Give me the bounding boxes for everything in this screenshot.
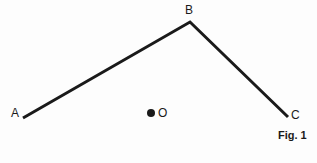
figure-canvas: A B C O Fig. 1: [0, 0, 317, 163]
point-o-dot-icon: [147, 109, 155, 117]
vertex-label-o: O: [158, 107, 167, 119]
vertex-label-a: A: [11, 107, 19, 119]
polyline-graphic: [0, 0, 317, 163]
path-a-b-c: [23, 22, 288, 118]
vertex-label-b: B: [185, 4, 193, 16]
figure-caption: Fig. 1: [278, 129, 307, 141]
vertex-label-c: C: [291, 109, 300, 121]
